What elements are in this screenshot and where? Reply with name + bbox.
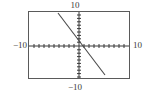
plotted-line <box>58 13 105 75</box>
x-axis-max-label: 10 <box>133 41 149 50</box>
graph-viewport: 10 −10 −10 10 <box>0 0 150 94</box>
y-axis-max-label: 10 <box>0 1 150 10</box>
plotted-line-series <box>58 13 105 75</box>
y-axis-min-label: −10 <box>0 83 150 92</box>
x-axis-min-label: −10 <box>2 41 27 50</box>
